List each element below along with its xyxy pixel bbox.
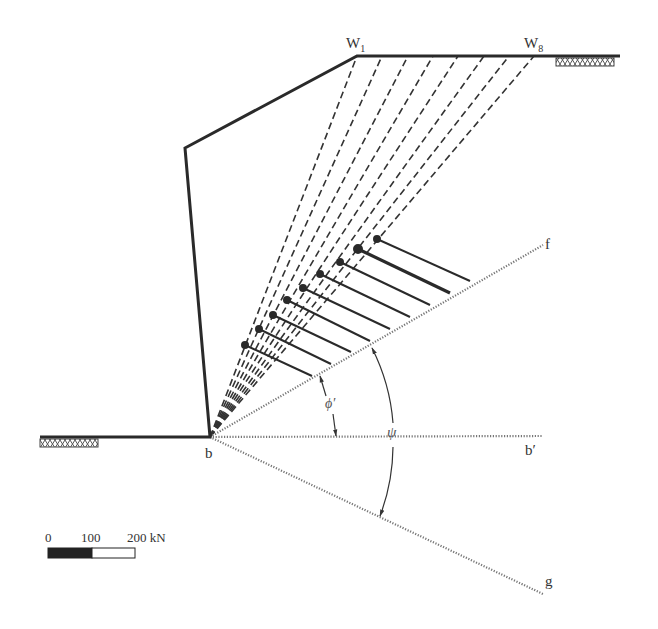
line-b-g <box>210 437 543 594</box>
scale-tick-0: 0 <box>45 531 52 544</box>
label-w8: W8 <box>524 36 543 54</box>
scale-tick-100: 100 <box>81 531 101 544</box>
trial-wedge-lines <box>210 56 534 437</box>
wedge-analysis-diagram: W1 W8 b b′ f g ϕ′ ψ 0 100 200 kN <box>0 0 658 629</box>
label-phi: ϕ′ <box>325 397 335 411</box>
scale-tick-200: 200 kN <box>127 531 166 544</box>
label-w8-text: W <box>524 35 538 51</box>
label-w1: W1 <box>346 36 365 54</box>
label-g: g <box>545 574 553 589</box>
ground-hatch-right <box>556 58 614 66</box>
label-f: f <box>545 237 550 252</box>
ground-hatch-left <box>40 439 98 447</box>
label-w1-text: W <box>346 35 360 51</box>
line-b-f <box>210 245 543 437</box>
slope-profile <box>40 56 620 437</box>
label-w1-sub: 1 <box>360 43 365 54</box>
line-b-bprime <box>210 436 543 437</box>
scale-bar <box>48 548 135 558</box>
label-b: b <box>205 446 213 461</box>
label-w8-sub: 8 <box>538 43 543 54</box>
label-psi: ψ <box>387 425 396 440</box>
reference-lines <box>210 245 543 594</box>
label-b-prime: b′ <box>525 443 536 458</box>
